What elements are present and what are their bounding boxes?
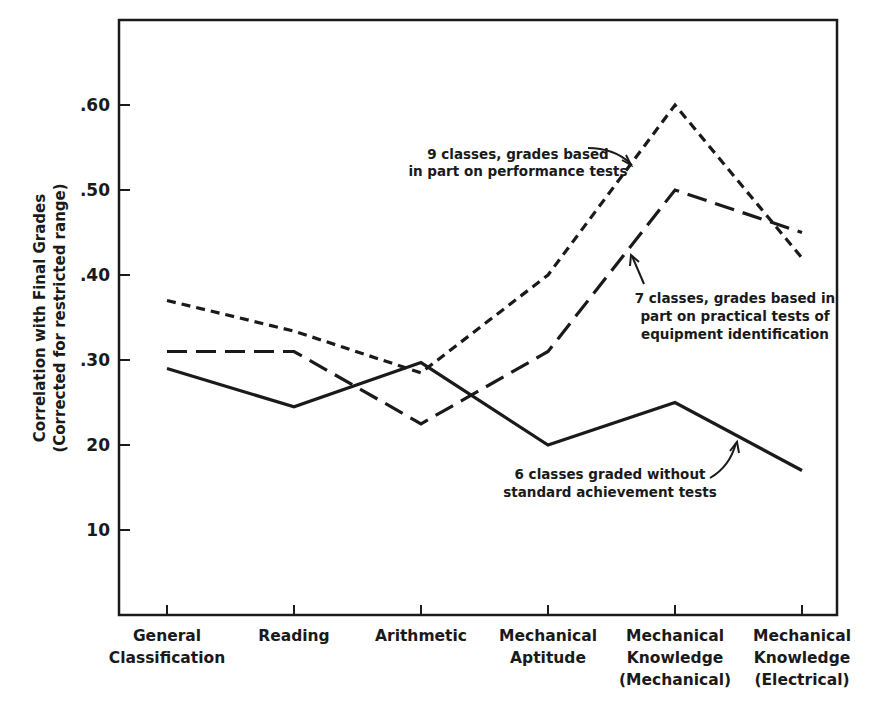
series-line-solid xyxy=(167,363,802,471)
annotation-9-classes: 9 classes, grades based in part on perfo… xyxy=(408,146,631,179)
annotation-6-classes: 6 classes graded without standard achiev… xyxy=(503,442,739,500)
annotation-7-classes-line1: 7 classes, grades based in xyxy=(635,290,835,306)
series-line-long-dash xyxy=(167,190,802,424)
y-tick-label: .40 xyxy=(80,265,110,285)
x-category-label: Mechanical xyxy=(753,627,851,645)
y-axis-title-line2: (Corrected for restricted range) xyxy=(51,183,69,452)
annotation-7-classes-line3: equipment identification xyxy=(641,326,829,342)
annotation-9-classes-line1: 9 classes, grades based xyxy=(427,146,609,162)
x-category-label: Aptitude xyxy=(510,649,586,667)
x-category-label: Mechanical xyxy=(499,627,597,645)
y-tick-label: .50 xyxy=(80,180,110,200)
x-category-label: (Electrical) xyxy=(754,671,849,689)
annotation-7-classes-line2: part on practical tests of xyxy=(640,308,829,324)
y-tick-label: 20 xyxy=(86,435,110,455)
y-tick-label: 10 xyxy=(86,520,110,540)
x-category-label: Classification xyxy=(109,649,225,667)
annotation-9-classes-line2: in part on performance tests xyxy=(408,163,627,179)
x-category-label: General xyxy=(133,627,201,645)
y-axis-title-line1: Correlation with Final Grades xyxy=(31,194,49,442)
y-tick-label: .30 xyxy=(80,350,110,370)
x-category-label: Knowledge xyxy=(754,649,851,667)
y-tick-label: .60 xyxy=(80,95,110,115)
line-chart: Correlation with Final Grades (Corrected… xyxy=(0,0,878,712)
x-category-label: Knowledge xyxy=(627,649,724,667)
x-category-label: Mechanical xyxy=(626,627,724,645)
x-category-label: (Mechanical) xyxy=(619,671,731,689)
annotation-6-classes-line1: 6 classes graded without xyxy=(515,466,706,482)
y-axis-title: Correlation with Final Grades (Corrected… xyxy=(31,183,69,452)
x-category-label: Reading xyxy=(258,627,329,645)
annotation-6-classes-line2: standard achievement tests xyxy=(503,484,717,500)
y-axis-ticks: .60.50.40.302010 xyxy=(80,95,130,540)
x-category-label: Arithmetic xyxy=(375,627,467,645)
annotation-7-classes: 7 classes, grades based in part on pract… xyxy=(630,255,835,342)
x-axis-ticks: GeneralClassificationReadingArithmeticMe… xyxy=(109,605,851,689)
